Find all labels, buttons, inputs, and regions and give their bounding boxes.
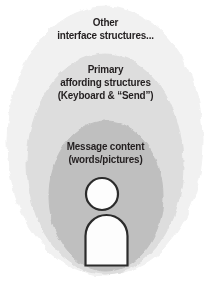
diagram-canvas [0,0,211,288]
person-head [86,178,118,210]
person-body [86,215,128,266]
nested-ellipse-diagram: Other interface structures... Primary af… [0,0,211,288]
